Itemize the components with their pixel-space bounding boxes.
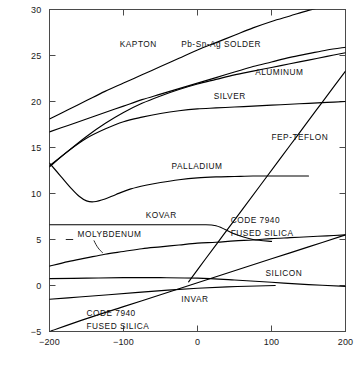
curve-pb-sn-ag-solder [50,47,346,132]
curve-label-molybdenum: MOLYBDENUM [78,229,142,239]
thermal-expansion-chart: −200−1000100200 −5051015202530 KAPTONPb-… [0,0,362,372]
chart-canvas: −200−1000100200 −5051015202530 KAPTONPb-… [0,0,362,372]
curve-label-kapton: KAPTON [120,39,157,49]
x-tick-label: 200 [338,337,354,347]
curve-label-code-7940-fused-silica-lower-label: CODE 7940 [87,308,136,318]
x-tick-label: 100 [264,337,280,347]
y-tick-label: 10 [31,189,41,199]
x-tick-label: 0 [195,337,200,347]
curve-molybdenum [50,235,346,266]
curve-kapton [50,2,346,119]
label-leader-lines [66,240,103,253]
y-tick-label: −5 [31,327,42,337]
y-tick-label: 0 [36,281,41,291]
y-tick-label: 20 [31,97,41,107]
curve-label-silicon: SILICON [266,268,303,278]
curve-label-palladium: PALLADIUM [172,161,223,171]
curve-label-code-7940-fused-silica-lower-label: FUSED SILICA [87,321,150,331]
curve-label-pb-sn-ag-solder: Pb-Sn-Ag SOLDER [181,39,261,49]
curve-invar [50,286,276,300]
curve-label-invar: INVAR [181,294,208,304]
x-tick-labels: −200−1000100200 [39,337,353,347]
leader-molybdenum [94,240,103,252]
curve-label-kovar: KOVAR [146,210,177,220]
curve-label-code-7940-fused-silica-rising: CODE 7940 [231,215,280,225]
curve-label-fep-teflon: FEP-TEFLON [272,132,329,142]
x-tick-label: −200 [39,337,60,347]
y-tick-label: 5 [36,235,41,245]
curve-label-silver: SILVER [214,91,246,101]
curve-label-aluminum: ALUMINUM [255,67,303,77]
y-tick-labels: −5051015202530 [31,5,42,337]
y-tick-label: 15 [31,143,41,153]
x-tick-label: −100 [113,337,134,347]
curve-silicon [50,278,346,287]
y-tick-label: 25 [31,51,41,61]
curve-label-code-7940-fused-silica-rising: FUSED SILICA [231,228,294,238]
y-tick-label: 30 [31,5,41,15]
